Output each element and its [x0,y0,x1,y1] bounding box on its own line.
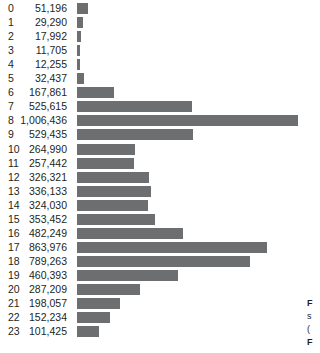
chart-row: 19460,393 [0,269,320,283]
row-value-label: 789,263 [0,255,67,269]
row-value-label: 460,393 [0,269,67,283]
bar [77,31,81,42]
row-value-label: 529,435 [0,128,67,142]
chart-row: 129,290 [0,16,320,30]
bar [77,200,148,211]
chart-row: 7525,615 [0,100,320,114]
row-value-label: 324,030 [0,199,67,213]
row-value-label: 287,209 [0,283,67,297]
chart-row: 14324,030 [0,199,320,213]
bar [77,214,155,225]
chart-row: 12326,321 [0,171,320,185]
row-value-label: 167,861 [0,86,67,100]
bar [77,45,80,56]
row-value-label: 482,249 [0,227,67,241]
chart-row: 11257,442 [0,157,320,171]
chart-row: 81,006,436 [0,114,320,128]
caption-line: s [307,310,320,323]
row-value-label: 152,234 [0,311,67,325]
bar [77,312,110,323]
bar [77,284,140,295]
bar [77,186,151,197]
row-value-label: 863,976 [0,241,67,255]
bar [77,256,250,267]
bar [77,17,83,28]
bar [77,298,120,309]
chart-row: 23101,425 [0,325,320,339]
row-value-label: 11,705 [0,44,67,58]
bar [77,115,298,126]
bar-chart: 051,196129,290217,992311,705412,255532,4… [0,0,320,353]
chart-row: 10264,990 [0,143,320,157]
chart-row: 9529,435 [0,128,320,142]
chart-row: 217,992 [0,30,320,44]
caption-line: F [307,297,320,310]
bar [77,242,267,253]
chart-row: 18789,263 [0,255,320,269]
row-value-label: 12,255 [0,58,67,72]
row-value-label: 264,990 [0,143,67,157]
bar [77,228,183,239]
caption-line: F [307,336,320,349]
row-value-label: 353,452 [0,213,67,227]
row-value-label: 336,133 [0,185,67,199]
row-value-label: 29,290 [0,16,67,30]
bar [77,129,193,140]
bar [77,270,178,281]
figure-caption: F s ( F [307,297,320,353]
bar [77,326,99,337]
row-value-label: 1,006,436 [0,114,67,128]
chart-row: 15353,452 [0,213,320,227]
row-value-label: 17,992 [0,30,67,44]
bar [77,101,192,112]
row-value-label: 326,321 [0,171,67,185]
bar [77,73,84,84]
chart-row: 6167,861 [0,86,320,100]
caption-line: ( [307,323,320,336]
chart-row: 13336,133 [0,185,320,199]
bar [77,158,134,169]
chart-row: 17863,976 [0,241,320,255]
chart-row: 532,437 [0,72,320,86]
row-value-label: 525,615 [0,100,67,114]
row-value-label: 257,442 [0,157,67,171]
bar [77,87,114,98]
bar [77,59,80,70]
chart-row: 311,705 [0,44,320,58]
row-value-label: 32,437 [0,72,67,86]
bar [77,3,88,14]
bar [77,144,135,155]
chart-row: 051,196 [0,2,320,16]
chart-row: 22152,234 [0,311,320,325]
bar [77,172,149,183]
chart-row: 16482,249 [0,227,320,241]
chart-row: 20287,209 [0,283,320,297]
row-value-label: 101,425 [0,325,67,339]
chart-row: 21198,057 [0,297,320,311]
chart-row: 412,255 [0,58,320,72]
row-value-label: 198,057 [0,297,67,311]
row-value-label: 51,196 [0,2,67,16]
